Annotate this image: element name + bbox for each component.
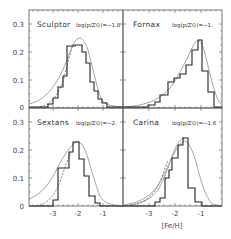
panel-title-carina: Carina bbox=[133, 118, 159, 127]
xtick-label-right-minus2: -2 bbox=[172, 210, 179, 218]
panel-annotation-fornax: log(p/Z⊙)=−1. bbox=[172, 22, 213, 29]
xtick-label-left-minus2: -2 bbox=[75, 210, 82, 218]
xtick-label-left-minus1: -1 bbox=[100, 210, 107, 218]
ytick-label-bottom-0.2: 0.2 bbox=[13, 147, 24, 155]
xtick-label-right-minus1: -1 bbox=[198, 210, 205, 218]
panel-annotation-carina: log(p/Z⊙)=−1.6 bbox=[172, 120, 217, 127]
panel-fornax-plot bbox=[123, 40, 222, 107]
panel-sculptor-plot bbox=[29, 38, 123, 107]
panel-title-sextans: Sextans bbox=[37, 118, 69, 127]
panel-title-fornax: Fornax bbox=[133, 20, 160, 29]
ytick-label-bottom-0.3: 0.3 bbox=[13, 119, 24, 127]
panel-annotation-sculptor: log(p/Z⊙)=−1.8 bbox=[76, 22, 121, 29]
x-axis-label: [Fe/H] bbox=[161, 222, 182, 230]
panel-annotation-sextans: log(p/Z⊙)=−2. bbox=[76, 120, 117, 127]
ytick-label-top-0: 0 bbox=[20, 104, 24, 112]
ytick-label-top-0.1: 0.1 bbox=[13, 77, 24, 85]
panel-carina-plot bbox=[123, 137, 222, 206]
xtick-label-left-minus3: -3 bbox=[50, 210, 57, 218]
panel-sextans-plot bbox=[29, 142, 123, 206]
ytick-label-top-0.2: 0.2 bbox=[13, 49, 24, 57]
panel-title-sculptor: Sculptor bbox=[37, 20, 71, 29]
xtick-label-right-minus3: -3 bbox=[146, 210, 153, 218]
ytick-label-bottom-0.1: 0.1 bbox=[13, 175, 24, 183]
ytick-label-bottom-0: 0 bbox=[20, 203, 24, 211]
chart-figure: 0.3 0.2 0.1 0 0.3 0.2 0.1 0 -3 -2 -1 -3 … bbox=[0, 0, 231, 239]
ytick-label-top-0.3: 0.3 bbox=[13, 21, 24, 29]
